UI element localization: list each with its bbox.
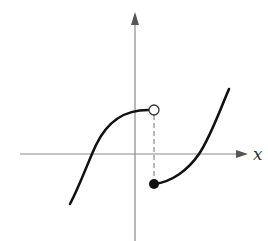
function-graph: x (0, 0, 268, 241)
x-axis-arrow-icon (236, 150, 248, 158)
left-branch-curve (70, 110, 148, 204)
open-point-marker (149, 105, 159, 115)
right-branch-curve (154, 89, 229, 184)
y-axis-arrow-icon (131, 12, 139, 25)
x-axis-label: x (253, 144, 263, 164)
closed-point-marker (149, 179, 159, 189)
